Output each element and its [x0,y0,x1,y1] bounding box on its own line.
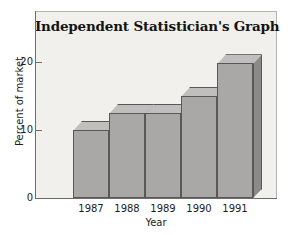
chart-figure: Independent Statistician's Graph 01020 P… [0,0,295,235]
bar-side-face [253,54,262,198]
y-tick-mark [36,62,42,63]
bar-front-face [181,96,217,198]
bar-front-face [217,63,253,198]
y-tick-mark [36,198,42,199]
y-tick-label: 0 [0,193,33,203]
y-axis-title: Percent of market [14,47,25,157]
chart-title: Independent Statistician's Graph [35,18,277,34]
y-tick-mark [36,130,42,131]
y-axis-line [35,11,36,199]
bar-1991 [217,54,262,198]
bar-front-face [145,113,181,198]
bar-front-face [73,130,109,198]
x-tick-label: 1991 [213,203,257,214]
bar-front-face [109,113,145,198]
x-axis-line [35,198,277,199]
x-axis-title: Year [35,217,277,228]
